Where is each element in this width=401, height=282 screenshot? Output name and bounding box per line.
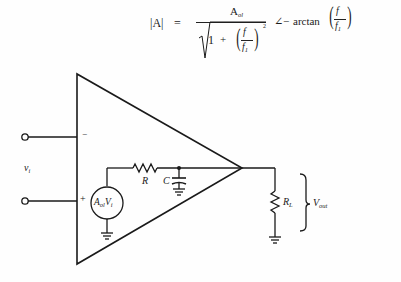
resistor-r [133,164,157,172]
circuit-drawing [0,0,401,282]
source-label: AolVi [94,197,113,208]
input-voltage-label: vi [24,162,30,174]
capacitor-label: C [163,175,170,186]
load-resistor [271,191,279,213]
output-brace [300,174,310,231]
minus-terminal-label: − [82,129,87,139]
resistor-label: R [142,175,148,186]
output-voltage-label: Vout [313,197,327,209]
input-terminal-plus [22,198,28,204]
plus-terminal-label: + [80,193,86,204]
sqrt-sign [199,22,266,58]
opamp-triangle [77,74,242,264]
load-resistor-label: RL [283,196,293,208]
input-terminal-minus [22,134,28,140]
